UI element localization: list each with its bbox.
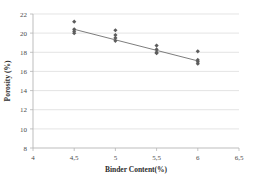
data-points xyxy=(72,20,200,66)
gridlines xyxy=(33,14,239,129)
ytick-label-14: 14 xyxy=(20,87,28,95)
ytick-label-20: 20 xyxy=(20,30,28,38)
ytick-label-8: 8 xyxy=(24,145,28,153)
xtick-label-4: 4 xyxy=(31,154,35,162)
y-axis-tick-labels: 22 20 18 16 14 12 10 8 xyxy=(20,11,28,153)
x-axis-tick-labels: 4 4,5 5 5,5 6 6,5 xyxy=(31,154,244,162)
y-axis-title: Porosity (%) xyxy=(3,60,12,101)
data-point xyxy=(72,20,76,24)
data-point xyxy=(196,49,200,53)
ytick-label-12: 12 xyxy=(20,106,28,114)
ytick-label-22: 22 xyxy=(20,11,28,19)
trendline xyxy=(74,29,198,61)
trendline-segment xyxy=(74,29,198,61)
ytick-label-10: 10 xyxy=(20,126,28,134)
xtick-label-6-5: 6,5 xyxy=(235,154,244,162)
xtick-label-6: 6 xyxy=(196,154,200,162)
x-axis-title: Binder Content(%) xyxy=(105,165,168,174)
ytick-label-16: 16 xyxy=(20,68,28,76)
xtick-label-4-5: 4,5 xyxy=(70,154,79,162)
data-point xyxy=(155,43,159,47)
porosity-vs-binder-content-chart: 22 20 18 16 14 12 10 8 4 4,5 5 5,5 6 6,5… xyxy=(0,0,261,176)
xtick-label-5: 5 xyxy=(114,154,118,162)
ytick-label-18: 18 xyxy=(20,49,28,57)
chart-canvas: 22 20 18 16 14 12 10 8 4 4,5 5 5,5 6 6,5… xyxy=(0,0,261,176)
data-point xyxy=(113,28,117,32)
xtick-label-5-5: 5,5 xyxy=(152,154,161,162)
